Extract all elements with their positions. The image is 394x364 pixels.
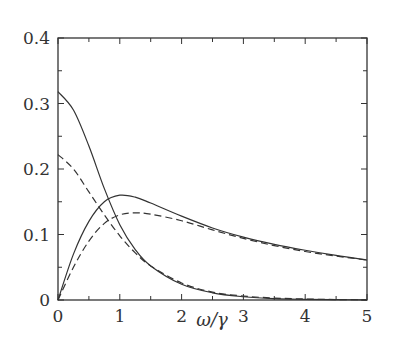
series-decaying-dashed — [58, 155, 367, 300]
series-rising-dashed — [58, 213, 367, 300]
series-decaying-solid — [58, 92, 367, 300]
x-tick-label: 5 — [362, 306, 373, 326]
y-tick-label: 0.1 — [23, 225, 50, 245]
x-tick-label: 1 — [114, 306, 125, 326]
plot-frame — [58, 38, 367, 300]
tick-labels: 01234500.10.20.30.4 — [23, 28, 372, 326]
x-axis-label: ω/γ — [196, 309, 228, 330]
axis-ticks — [58, 38, 367, 300]
x-tick-label: 3 — [238, 306, 249, 326]
x-tick-label: 0 — [53, 306, 64, 326]
x-tick-label: 2 — [176, 306, 187, 326]
data-series — [58, 92, 367, 300]
plot-border — [58, 38, 367, 300]
series-rising-solid — [58, 195, 367, 300]
y-tick-label: 0 — [39, 290, 50, 310]
chart: 01234500.10.20.30.4 ω/γ — [0, 0, 394, 364]
x-tick-label: 4 — [300, 306, 311, 326]
y-tick-label: 0.2 — [23, 159, 50, 179]
y-tick-label: 0.4 — [23, 28, 50, 48]
y-tick-label: 0.3 — [23, 94, 50, 114]
